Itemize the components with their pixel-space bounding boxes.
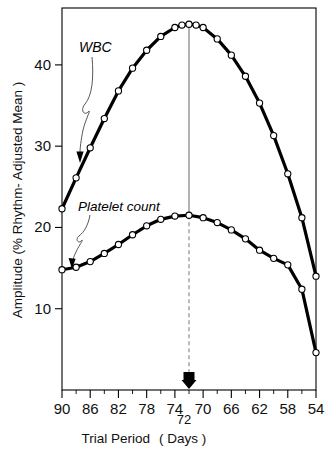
data-point — [271, 133, 277, 139]
data-point — [193, 22, 199, 28]
data-point — [256, 100, 262, 106]
data-point — [87, 145, 93, 151]
chart-plot: 10203040 90868278747066625854 WBC Platel… — [0, 0, 335, 458]
data-point — [129, 65, 135, 71]
data-point — [129, 232, 135, 238]
y-tick-label: 40 — [34, 56, 51, 73]
y-axis-tick-labels: 10203040 — [34, 56, 51, 317]
series-platelet-points — [59, 212, 319, 356]
data-point — [144, 223, 150, 229]
data-point — [200, 215, 206, 221]
data-point — [59, 206, 65, 212]
x-tick-label: 82 — [110, 400, 127, 417]
series-platelet-line — [62, 215, 316, 352]
data-point — [285, 262, 291, 268]
y-axis-title: Amplitude (% Rhythm- Adjusted Mean ) — [10, 82, 25, 318]
data-point — [228, 52, 234, 58]
x-tick-label: 70 — [195, 400, 212, 417]
data-point — [228, 227, 234, 233]
data-point — [115, 88, 121, 94]
data-point — [242, 73, 248, 79]
data-point — [200, 24, 206, 30]
x-tick-label: 78 — [138, 400, 155, 417]
y-tick-label: 20 — [34, 218, 51, 235]
x-axis-title: Trial Period — [81, 431, 150, 446]
wbc-leader-line — [80, 57, 93, 153]
data-point — [285, 171, 291, 177]
data-point — [271, 255, 277, 261]
data-point — [186, 21, 192, 27]
reference-arrow-icon — [182, 372, 197, 389]
data-point — [59, 267, 65, 273]
reference-value-label: 72 — [177, 412, 191, 427]
data-point — [73, 264, 79, 270]
x-tick-label: 62 — [251, 400, 268, 417]
x-axis-ticks — [62, 390, 316, 398]
x-tick-label: 66 — [223, 400, 240, 417]
x-axis-title-unit: ( Days ) — [159, 431, 206, 446]
data-point — [256, 247, 262, 253]
data-point — [73, 175, 79, 181]
series-platelet — [59, 212, 319, 356]
y-tick-label: 10 — [34, 300, 51, 317]
data-point — [101, 250, 107, 256]
x-tick-label: 86 — [82, 400, 99, 417]
platelet-leader-line — [73, 215, 90, 261]
data-point — [214, 219, 220, 225]
data-point — [179, 22, 185, 28]
data-point — [214, 36, 220, 42]
data-point — [172, 213, 178, 219]
x-tick-label: 58 — [279, 400, 296, 417]
x-tick-label: 54 — [308, 400, 325, 417]
y-tick-label: 30 — [34, 137, 51, 154]
data-point — [101, 115, 107, 121]
data-point — [299, 215, 305, 221]
wbc-series-label: WBC — [79, 39, 113, 55]
data-point — [87, 258, 93, 264]
data-point — [172, 24, 178, 30]
data-point — [186, 212, 192, 218]
data-point — [313, 350, 319, 356]
data-point — [242, 236, 248, 242]
data-point — [313, 273, 319, 279]
data-point — [115, 241, 121, 247]
data-point — [158, 216, 164, 222]
data-point — [158, 33, 164, 39]
platelet-series-label: Platelet count — [78, 199, 161, 214]
x-tick-label: 90 — [54, 400, 71, 417]
figure-container: 10203040 90868278747066625854 WBC Platel… — [0, 0, 335, 458]
data-point — [144, 47, 150, 53]
data-point — [299, 286, 305, 292]
